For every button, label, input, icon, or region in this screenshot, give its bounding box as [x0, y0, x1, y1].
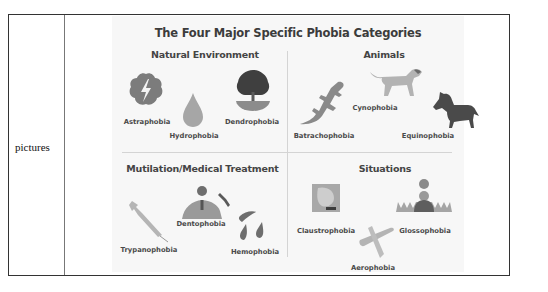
label-equinophobia: Equinophobia — [402, 132, 454, 140]
dentist-icon — [178, 185, 234, 219]
label-dendrophobia: Dendrophobia — [225, 118, 279, 126]
label-batrachophobia: Batrachophobia — [294, 132, 355, 140]
label-trypanophobia: Trypanophobia — [121, 246, 178, 254]
enclosed-space-icon — [312, 184, 340, 212]
label-cynophobia: Cynophobia — [352, 104, 397, 112]
tree-icon — [234, 68, 272, 112]
storm-cloud-lightning-icon — [128, 70, 164, 114]
row-label-cell: pictures — [9, 15, 65, 275]
label-aerophobia: Aerophobia — [351, 264, 395, 272]
section-title-mutilation-medical-treatment: Mutilation/Medical Treatment — [120, 163, 285, 174]
label-dentophobia: Dentophobia — [176, 220, 225, 228]
horse-icon — [430, 90, 480, 134]
section-title-situations: Situations — [340, 163, 430, 174]
label-hydrophobia: Hydrophobia — [169, 132, 218, 140]
row-label: pictures — [15, 141, 50, 153]
lizard-icon — [298, 78, 348, 126]
horizontal-divider — [122, 152, 452, 153]
vertical-divider — [287, 51, 288, 257]
label-claustrophobia: Claustrophobia — [297, 227, 355, 235]
label-glossophobia: Glossophobia — [399, 227, 451, 235]
blood-drops-icon — [238, 210, 266, 242]
syringe-icon — [128, 199, 170, 243]
water-drop-icon — [182, 92, 204, 128]
section-title-natural-environment: Natural Environment — [130, 49, 280, 60]
section-title-animals: Animals — [344, 49, 424, 60]
phobia-categories-figure: The Four Major Specific Phobia Categorie… — [112, 16, 464, 272]
public-speaking-icon — [396, 178, 452, 212]
label-astraphobia: Astraphobia — [124, 118, 171, 126]
dog-icon — [368, 66, 424, 98]
figure-title: The Four Major Specific Phobia Categorie… — [112, 26, 464, 40]
label-hemophobia: Hemophobia — [231, 248, 279, 256]
airplane-icon — [356, 224, 396, 260]
